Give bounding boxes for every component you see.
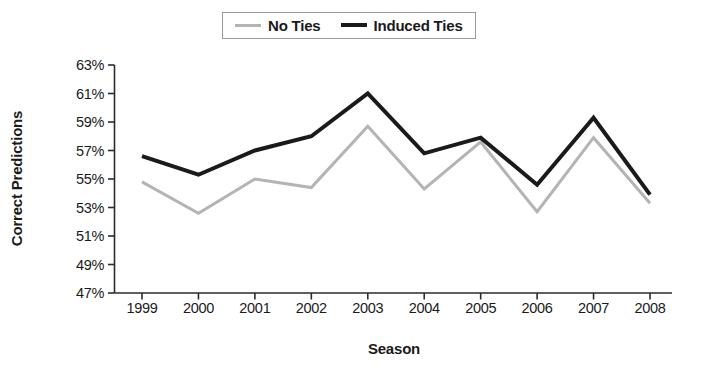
x-axis-tick-label: 2002 <box>296 300 327 316</box>
x-axis-tick-label: 2008 <box>634 300 665 316</box>
plot-area: 63%61%59%57%55%53%51%49%47% 199920002001… <box>0 0 705 379</box>
x-axis-tick-label: 2001 <box>239 300 270 316</box>
x-axis-tick-label: 2003 <box>352 300 383 316</box>
x-axis-tick-label: 2006 <box>522 300 553 316</box>
x-axis-tick-labels: 1999200020012002200320042005200620072008 <box>0 0 705 379</box>
x-axis-tick-label: 2000 <box>183 300 214 316</box>
x-axis-tick-label: 1999 <box>126 300 157 316</box>
line-chart: No Ties Induced Ties Correct Predictions… <box>0 0 705 379</box>
x-axis-tick-label: 2005 <box>465 300 496 316</box>
x-axis-tick-label: 2007 <box>578 300 609 316</box>
x-axis-tick-label: 2004 <box>409 300 440 316</box>
